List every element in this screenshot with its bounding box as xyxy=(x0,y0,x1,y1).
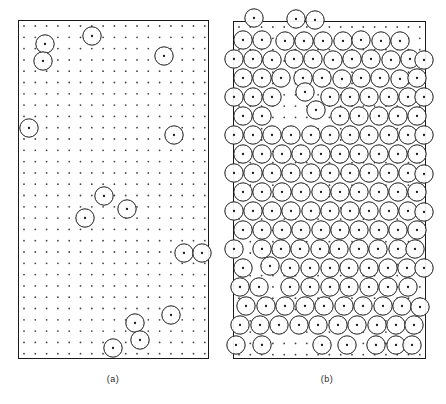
lattice-dots xyxy=(23,25,206,355)
adsorbate-circle xyxy=(311,240,329,258)
adsorbate-circle xyxy=(301,278,319,296)
adsorbate-circle xyxy=(350,183,368,201)
adsorbate-circle xyxy=(302,164,320,182)
adsorbate-circle xyxy=(350,107,368,125)
adsorbate-circle xyxy=(313,336,331,354)
adsorbate-circle xyxy=(302,202,320,220)
adsorbate-circle xyxy=(296,83,314,101)
adsorbate-circle xyxy=(352,69,370,87)
adsorbate-circle xyxy=(234,259,252,277)
adsorbate-circle xyxy=(360,278,378,296)
adsorbate-circle xyxy=(389,107,407,125)
adsorbate-circle xyxy=(408,221,426,239)
adsorbate-circle xyxy=(253,221,271,239)
adsorbate-circle xyxy=(343,50,361,68)
adsorbate-circle xyxy=(369,240,387,258)
adsorbate-circle xyxy=(83,27,101,45)
adsorbate-circle xyxy=(234,31,252,49)
adsorbate-circle xyxy=(104,339,122,357)
adsorbate-circle xyxy=(292,145,310,163)
adsorbate-circle xyxy=(387,316,405,334)
adsorbate-circle xyxy=(374,297,392,315)
adsorbate-circle xyxy=(282,202,300,220)
adsorbate-circle xyxy=(155,47,173,65)
adsorbate-circle xyxy=(312,145,330,163)
adsorbate-circle xyxy=(34,52,52,70)
adsorbate-circles xyxy=(225,9,433,354)
adsorbate-circle xyxy=(360,202,378,220)
adsorbate-circle xyxy=(193,244,211,262)
adsorbate-circle xyxy=(331,183,349,201)
adsorbate-circle xyxy=(263,51,281,69)
panel-b xyxy=(223,0,446,368)
adsorbate-circle xyxy=(398,259,416,277)
adsorbate-circle xyxy=(341,164,359,182)
adsorbate-circle xyxy=(368,316,386,334)
adsorbate-circle xyxy=(312,183,330,201)
adsorbate-circle xyxy=(285,50,303,68)
adsorbate-circle xyxy=(231,278,249,296)
adsorbate-circle xyxy=(244,164,262,182)
adsorbate-circle xyxy=(341,126,359,144)
adsorbate-circle xyxy=(131,331,149,349)
adsorbate-circle xyxy=(126,314,144,332)
adsorbate-circle xyxy=(370,107,388,125)
adsorbate-circle xyxy=(341,88,359,106)
adsorbate-circle xyxy=(273,183,291,201)
adsorbate-circle xyxy=(306,11,324,29)
adsorbate-circle xyxy=(237,297,255,315)
adsorbate-circle xyxy=(295,32,313,50)
adsorbate-circle xyxy=(251,316,269,334)
adsorbate-circle xyxy=(257,297,275,315)
adsorbate-circles xyxy=(20,27,211,357)
panel-b-canvas xyxy=(223,0,446,368)
adsorbate-circle xyxy=(175,244,193,262)
adsorbate-circle xyxy=(245,9,263,27)
adsorbate-circle xyxy=(270,316,288,334)
adsorbate-circle xyxy=(276,32,294,50)
adsorbate-circle xyxy=(408,69,426,87)
adsorbate-circle xyxy=(76,209,94,227)
adsorbate-circle xyxy=(321,88,339,106)
adsorbate-circle xyxy=(244,88,262,106)
adsorbate-circle xyxy=(389,183,407,201)
adsorbate-circle xyxy=(276,297,294,315)
adsorbate-circle xyxy=(340,278,358,296)
adsorbate-circle xyxy=(408,183,426,201)
adsorbate-circle xyxy=(273,145,291,163)
adsorbate-circle xyxy=(314,32,332,50)
adsorbate-circle xyxy=(253,69,271,87)
adsorbate-circle xyxy=(415,126,433,144)
adsorbate-circle xyxy=(324,51,342,69)
adsorbate-circle xyxy=(331,145,349,163)
adsorbate-circle xyxy=(244,202,262,220)
adsorbate-circle xyxy=(118,200,136,218)
adsorbate-circle xyxy=(406,240,424,258)
adsorbate-circle xyxy=(282,164,300,182)
adsorbate-circle xyxy=(253,183,271,201)
adsorbate-circle xyxy=(333,70,351,88)
adsorbate-circle xyxy=(292,183,310,201)
adsorbate-circle xyxy=(36,35,54,53)
adsorbate-circle xyxy=(272,240,290,258)
adsorbate-circle xyxy=(371,69,389,87)
adsorbate-circle xyxy=(350,145,368,163)
panel-a-canvas xyxy=(0,0,223,368)
adsorbate-circle xyxy=(321,202,339,220)
adsorbate-circle xyxy=(354,297,372,315)
adsorbate-circle xyxy=(391,70,409,88)
adsorbate-circle xyxy=(162,306,180,324)
adsorbate-circle xyxy=(263,202,281,220)
adsorbate-circle xyxy=(281,259,299,277)
adsorbate-circle xyxy=(296,297,314,315)
panel-a xyxy=(0,0,223,368)
adsorbate-circle xyxy=(302,126,320,144)
adsorbate-circle xyxy=(352,31,370,49)
adsorbate-circle xyxy=(321,164,339,182)
adsorbate-circle xyxy=(313,69,331,87)
adsorbate-circle xyxy=(253,31,271,49)
adsorbate-circle xyxy=(225,202,243,220)
adsorbate-circle xyxy=(415,203,433,221)
adsorbate-circle xyxy=(307,101,325,119)
adsorbate-circle xyxy=(382,51,400,69)
